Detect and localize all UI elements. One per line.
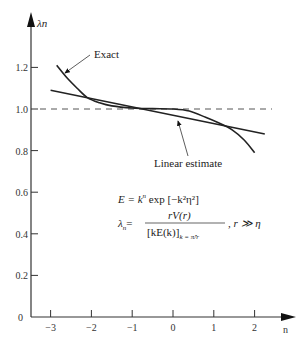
y-tick-label: 0.4: [16, 229, 29, 240]
svg-text:[kE(k)]k = π̂/r: [kE(k)]k = π̂/r: [147, 226, 199, 241]
x-tick-label: −3: [45, 322, 56, 333]
y-ticks: 00.20.40.60.81.01.2: [16, 62, 39, 323]
exact-arrow: [65, 55, 90, 73]
x-tick-label: 1: [211, 322, 216, 333]
y-axis-label: λn: [36, 17, 48, 29]
x-tick-label: −2: [86, 322, 97, 333]
svg-text:E = kn exp [−k²η²]: E = kn exp [−k²η²]: [117, 192, 199, 205]
x-ticks: −3−2−1012: [45, 310, 257, 333]
linear-estimate-label: Linear estimate: [154, 157, 222, 169]
y-tick-label: 0.2: [16, 270, 29, 281]
svg-text:, r ≫ η: , r ≫ η: [228, 217, 261, 229]
formula: E = kn exp [−k²η²] λn= rV(r) [kE(k)]k = …: [117, 192, 261, 241]
x-tick-label: −1: [127, 322, 138, 333]
chart: λn n 00.20.40.60.81.01.2 −3−2−1012 Exact…: [0, 0, 307, 342]
x-axis-label: n: [283, 324, 288, 335]
linear-estimate-arrow: [178, 121, 188, 156]
y-tick-label: 0: [18, 312, 23, 323]
y-tick-label: 1.0: [16, 104, 29, 115]
y-axis-arrow-icon: [27, 12, 35, 27]
series-linear-estimate-line: [51, 90, 265, 134]
y-tick-label: 1.2: [16, 62, 29, 73]
x-tick-label: 0: [171, 322, 176, 333]
exact-label: Exact: [94, 48, 119, 60]
x-tick-label: 2: [252, 322, 257, 333]
y-tick-label: 0.8: [16, 146, 29, 157]
svg-text:rV(r): rV(r): [168, 209, 191, 222]
svg-text:λn=: λn=: [117, 217, 132, 232]
y-tick-label: 0.6: [16, 187, 29, 198]
x-axis-arrow-icon: [281, 313, 296, 321]
